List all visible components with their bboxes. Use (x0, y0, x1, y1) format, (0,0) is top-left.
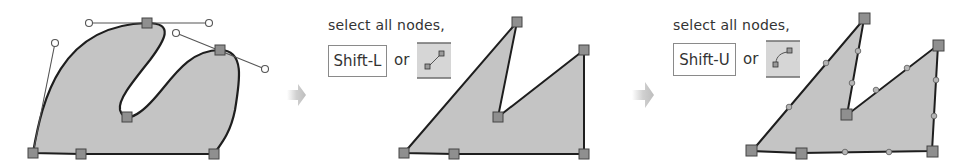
handle-knob[interactable] (933, 77, 939, 83)
handle-knob[interactable] (823, 60, 829, 66)
make-segments-curves-icon[interactable] (766, 41, 800, 77)
node[interactable] (933, 40, 944, 51)
node[interactable] (927, 146, 938, 157)
instruction-caption: select all nodes, (673, 17, 790, 33)
node[interactable] (449, 149, 459, 159)
handle-knob[interactable] (842, 149, 848, 155)
node-editing-diagram (0, 0, 960, 165)
or-label: or (743, 50, 758, 68)
node[interactable] (209, 149, 219, 159)
node[interactable] (76, 149, 86, 159)
handle-knob[interactable] (873, 87, 879, 93)
handle-knob[interactable] (86, 20, 93, 27)
node[interactable] (746, 145, 757, 156)
node[interactable] (512, 17, 522, 27)
handle-knob[interactable] (849, 80, 855, 86)
node[interactable] (579, 45, 589, 55)
handle-knob[interactable] (886, 149, 892, 155)
shortcut-key-shift-l: Shift-L (328, 45, 387, 77)
node[interactable] (28, 148, 38, 158)
make-segments-lines-icon[interactable] (417, 43, 451, 78)
node[interactable] (579, 149, 589, 159)
handle-knob[interactable] (52, 40, 59, 47)
handle-knob[interactable] (855, 48, 861, 54)
node[interactable] (122, 112, 132, 122)
node[interactable] (796, 148, 807, 159)
node[interactable] (399, 148, 409, 158)
node[interactable] (215, 45, 225, 55)
converted-curve-path (752, 19, 938, 153)
node[interactable] (859, 13, 870, 24)
node[interactable] (841, 109, 852, 120)
handle-knob[interactable] (931, 113, 937, 119)
node[interactable] (493, 112, 503, 122)
curves-shape (746, 13, 944, 159)
lines-shape (399, 17, 589, 159)
handle-knob[interactable] (904, 65, 910, 71)
handle-knob[interactable] (262, 66, 269, 73)
original-shape (28, 18, 269, 159)
shortcut-key-shift-u: Shift-U (673, 43, 736, 76)
instruction-caption: select all nodes, (328, 17, 445, 33)
handle-knob[interactable] (786, 104, 792, 110)
arrow-right-icon (287, 84, 306, 106)
arrow-right-icon (632, 82, 654, 108)
straight-path (404, 22, 584, 154)
handle-knob[interactable] (206, 20, 213, 27)
curved-path (33, 23, 239, 154)
node[interactable] (142, 18, 152, 28)
handle-knob[interactable] (173, 30, 180, 37)
or-label: or (394, 51, 409, 69)
